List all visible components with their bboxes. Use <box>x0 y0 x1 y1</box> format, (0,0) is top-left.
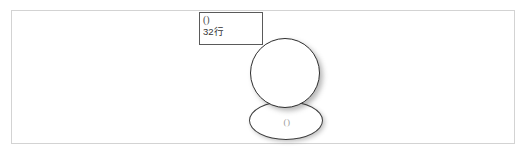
label-box-line-2: 32行 <box>203 26 262 38</box>
circle-shape[interactable] <box>250 38 320 108</box>
label-box-line-1: () <box>203 14 262 26</box>
diagram-canvas: () () 32行 <box>0 0 529 155</box>
label-box[interactable]: () 32行 <box>199 12 263 45</box>
